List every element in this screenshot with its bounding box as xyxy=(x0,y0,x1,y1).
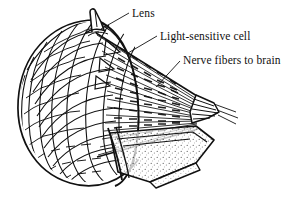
callout-label-nerve-fibers: Nerve fibers to brain xyxy=(183,54,281,66)
leader-light-sensitive-cell xyxy=(128,36,157,53)
callout-label-light-sensitive-cell: Light-sensitive cell xyxy=(160,30,250,42)
compound-eye-figure: Lens Light-sensitive cell Nerve fibers t… xyxy=(0,0,304,199)
compound-eye-diagram xyxy=(0,0,304,199)
callout-leaders xyxy=(101,13,180,87)
callout-label-lens: Lens xyxy=(132,7,155,19)
nerve-fiber-bundle xyxy=(190,95,238,124)
leader-lens xyxy=(101,13,129,29)
